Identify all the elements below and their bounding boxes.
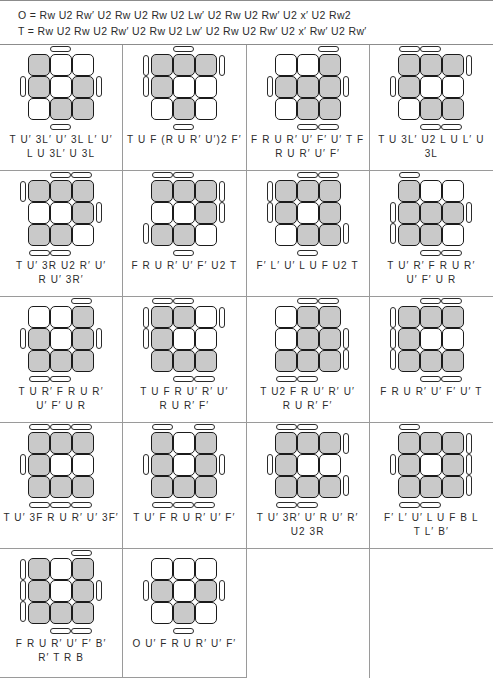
edge-bar-left-1 [20,76,26,97]
case-cell-8: T U′ R′ F R U R′ U′ F′ U R [370,171,493,297]
sticker-r0c0 [398,180,420,202]
sticker-r0c0 [275,180,297,202]
case-cell-13: T U′ 3F R U R′ U′ 3F′ [0,423,123,549]
edge-bar-right-1 [466,454,472,475]
edge-bar-left-0 [143,55,149,76]
sticker-r2c0 [28,224,50,246]
edge-bar-bottom-1 [420,376,441,382]
sticker-r2c1 [50,224,72,246]
edge-bar-left-1 [267,76,273,97]
sticker-r1c0 [151,202,173,224]
cube-diagram-9 [13,302,109,382]
sticker-r0c2 [72,54,94,76]
case-cell-17: F R U R′ U′ F′ B′ R′ T R B [0,549,123,678]
cube-top-face [28,54,94,120]
sticker-r1c0 [398,202,420,224]
sticker-r1c2 [442,454,464,476]
cube-diagram-17 [13,554,109,634]
sticker-r2c0 [398,350,420,372]
edge-bar-bottom-1 [50,124,71,130]
sticker-r1c0 [398,454,420,476]
algorithm-text-6: F R U R′ U′ F′ U2 T [129,259,239,273]
edge-bar-bottom-0 [29,250,50,256]
cube-diagram-12 [383,302,479,382]
sticker-r0c1 [173,432,195,454]
sticker-r0c1 [297,432,319,454]
edge-bar-bottom-2 [441,376,462,382]
cube-diagram-2 [136,50,232,130]
sticker-r0c2 [319,54,341,76]
sticker-r1c2 [319,328,341,350]
cube-diagram-14 [136,428,232,508]
sticker-r1c2 [72,328,94,350]
algorithm-sheet: O = Rw U2 Rw′ U2 Rw U2 Rw U2 Lw′ U2 Rw U… [0,0,493,689]
edge-bar-left-2 [390,349,396,370]
edge-bar-top-1 [50,172,71,178]
sticker-r2c2 [72,224,94,246]
sticker-r1c1 [50,580,72,602]
edge-bar-bottom-2 [318,124,339,130]
case-cell-14: T U′ F R U R′ U′ F′ [123,423,246,549]
edge-bar-top-1 [297,172,318,178]
sticker-r0c2 [72,180,94,202]
edge-bar-top-2 [318,46,339,52]
edge-bar-right-0 [466,55,472,76]
definition-t: T = Rw U2 Rw U2 Rw′ U2 Rw U2 Lw′ U2 Rw U… [18,23,475,39]
sticker-r2c2 [72,602,94,624]
cube-top-face [398,54,464,120]
sticker-r0c2 [195,558,217,580]
case-cell-9: T U R′ F R U R′ U′ F′ U R [0,297,123,423]
sticker-r0c1 [173,558,195,580]
case-cell-empty [370,549,493,678]
sticker-r1c2 [195,454,217,476]
sticker-r1c0 [275,328,297,350]
sticker-r2c0 [398,98,420,120]
sticker-r0c1 [297,180,319,202]
sticker-r0c0 [28,54,50,76]
edge-bar-left-2 [20,601,26,622]
edge-bar-right-1 [96,328,102,349]
sticker-r2c2 [442,98,464,120]
edge-bar-right-2 [466,475,472,496]
sticker-r0c2 [72,558,94,580]
case-cell-2: T U F (R U R′ U′)2 F′ [123,45,246,171]
case-cell-11: T U2 F R U′ R′ U′ R U R′ F′ [247,297,370,423]
edge-bar-bottom-0 [29,376,50,382]
cube-top-face [28,558,94,624]
sticker-r2c2 [442,476,464,498]
edge-bar-top-0 [29,424,50,430]
edge-bar-bottom-1 [173,628,194,634]
cube-diagram-10 [136,302,232,382]
sticker-r0c0 [398,54,420,76]
edge-bar-top-2 [71,550,92,556]
edge-bar-bottom-0 [276,376,297,382]
edge-bar-bottom-1 [173,502,194,508]
cube-top-face [398,432,464,498]
sticker-r1c0 [28,580,50,602]
case-cell-1: T U′ 3L′ U′ 3L L′ U′ L U 3L′ U 3L [0,45,123,171]
edge-bar-right-1 [219,454,225,475]
sticker-r1c0 [28,76,50,98]
sticker-r0c2 [442,432,464,454]
sticker-r1c2 [319,76,341,98]
cube-diagram-3 [260,50,356,130]
sticker-r0c1 [50,306,72,328]
edge-bar-top-1 [50,46,71,52]
sticker-r0c1 [173,306,195,328]
cube-top-face [275,54,341,120]
sticker-r0c0 [398,432,420,454]
sticker-r0c1 [50,432,72,454]
edge-bar-left-1 [390,328,396,349]
edge-bar-top-0 [152,172,173,178]
sticker-r0c1 [50,558,72,580]
sticker-r2c2 [195,602,217,624]
sticker-r0c0 [28,558,50,580]
sticker-r0c1 [420,432,442,454]
sticker-r1c1 [420,202,442,224]
edge-bar-top-0 [399,46,420,52]
sticker-r0c1 [50,180,72,202]
sticker-r2c0 [275,98,297,120]
sticker-r2c2 [319,224,341,246]
cube-top-face [151,54,217,120]
edge-bar-top-1 [173,172,194,178]
